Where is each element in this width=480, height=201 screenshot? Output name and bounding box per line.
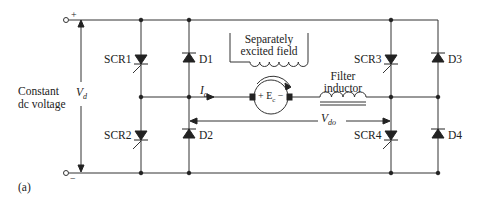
junction-dot — [187, 95, 191, 99]
motor-plus: + — [258, 90, 264, 101]
ia-subscript: a — [204, 90, 208, 99]
positive-terminal — [64, 18, 69, 23]
scr3-label: SCR3 — [354, 54, 382, 66]
junction-dot — [436, 171, 440, 175]
d1-label: D1 — [199, 54, 213, 66]
ia-arrow-icon — [207, 94, 214, 100]
scr4-gate — [383, 141, 391, 149]
plus-sign: + — [71, 10, 77, 20]
scr3-gate — [383, 65, 391, 73]
scr1-label: SCR1 — [104, 54, 132, 66]
scr4-label: SCR4 — [354, 130, 382, 142]
vd-symbol: V — [76, 86, 83, 98]
motor-minus: − — [278, 90, 284, 101]
motor-label: + Ec − — [258, 91, 284, 104]
scr4-icon — [385, 131, 397, 140]
source-label-line2: dc voltage — [18, 99, 66, 111]
rotation-arrow-head — [285, 83, 291, 90]
junction-dot — [139, 18, 143, 22]
inductor-label-line2: inductor — [316, 83, 370, 95]
motor-brush-left — [250, 94, 255, 100]
scr1-icon — [135, 55, 147, 64]
scr1-gate — [133, 65, 141, 73]
d3-icon — [432, 53, 444, 62]
vd-arrow-head-down — [78, 165, 84, 172]
circuit-diagram: + − Constant dc voltage Vd SCR1 SCR2 SCR… — [0, 0, 480, 201]
vd-arrow-head-up — [78, 20, 84, 27]
ia-label: Ia — [200, 85, 208, 99]
d4-label: D4 — [448, 130, 462, 142]
negative-terminal — [64, 171, 69, 176]
motor-brush-right — [287, 94, 292, 100]
vdo-subscript: do — [328, 118, 336, 127]
vdo-symbol: V — [321, 112, 328, 124]
scr2-label: SCR2 — [104, 130, 132, 142]
d3-label: D3 — [448, 54, 462, 66]
junction-dot — [389, 171, 393, 175]
inductor-label-line1: Filter — [316, 71, 370, 83]
source-label-line1: Constant — [18, 86, 59, 98]
figure-label: (a) — [18, 182, 31, 194]
d2-icon — [183, 129, 195, 138]
d1-icon — [183, 53, 195, 62]
motor-emf-sub: c — [272, 96, 275, 104]
d4-icon — [432, 129, 444, 138]
junction-dot — [187, 18, 191, 22]
junction-dot — [139, 171, 143, 175]
vd-label: Vd — [76, 87, 87, 101]
field-label-line1: Separately — [232, 34, 306, 46]
minus-sign: − — [70, 174, 76, 184]
scr3-icon — [385, 55, 397, 64]
circuit-schematic — [0, 0, 480, 201]
junction-dot — [436, 95, 440, 99]
junction-dot — [389, 95, 393, 99]
d2-label: D2 — [199, 130, 213, 142]
field-coil-icon — [250, 62, 308, 67]
vdo-arrow-head-right — [383, 118, 390, 124]
field-label-line2: excited field — [232, 46, 306, 58]
junction-dot — [389, 18, 393, 22]
vdo-arrow-head-left — [190, 118, 197, 124]
junction-dot — [187, 171, 191, 175]
junction-dot — [139, 95, 143, 99]
vdo-label: Vdo — [321, 113, 336, 127]
scr2-gate — [133, 141, 141, 149]
vd-subscript: d — [83, 92, 87, 101]
scr2-icon — [135, 131, 147, 140]
